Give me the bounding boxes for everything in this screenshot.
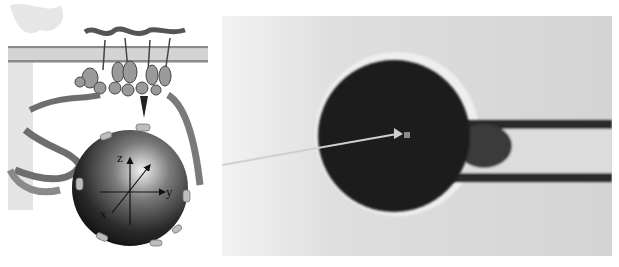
membrane-core (8, 49, 208, 61)
membrane-top-line (8, 46, 208, 49)
schematic-panel: z y x (0, 0, 215, 267)
fiber (30, 95, 100, 110)
micrograph-image (222, 16, 612, 256)
micrograph-panel (222, 16, 612, 256)
linker (140, 96, 148, 118)
z-axis-label: z (117, 150, 123, 165)
micropipette (447, 120, 612, 182)
center-marker (404, 132, 410, 138)
schematic-illustration: z y x (0, 0, 215, 267)
membrane-bottom-line (8, 60, 208, 63)
extracellular-protein (85, 29, 185, 34)
intracellular-complex (75, 61, 171, 96)
background-cell (10, 4, 63, 33)
x-axis-label: x (100, 206, 107, 221)
y-axis-label: y (166, 184, 173, 199)
